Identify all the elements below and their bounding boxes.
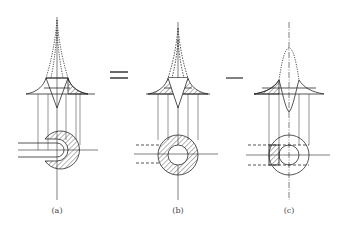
diagram-canvas <box>0 0 345 226</box>
equals-operator <box>110 72 128 78</box>
panel-b-label: (b) <box>172 206 183 215</box>
panel-a-label: (a) <box>51 206 62 215</box>
panel-c-label: (c) <box>284 206 295 215</box>
panel-c <box>246 22 330 200</box>
panel-a <box>18 17 98 200</box>
panel-b <box>134 22 218 200</box>
